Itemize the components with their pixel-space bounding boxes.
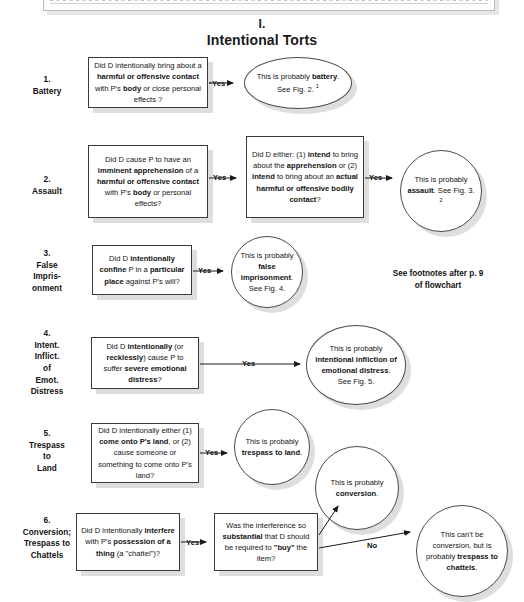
- row-label-false-imprisonment-line4: onment: [10, 283, 84, 295]
- edge-label-assault-yes-1: Yes: [213, 173, 226, 182]
- title-numeral: I.: [0, 17, 524, 32]
- row-label-iied-number: 4.: [10, 328, 84, 340]
- decision-box-conversion[interactable]: Did D intentionally interfere with P's p…: [76, 513, 180, 571]
- footnote-reference-line1: See footnotes after p. 9: [358, 268, 518, 280]
- row-label-battery-number: 1.: [12, 74, 82, 86]
- terminal-battery-outcome-text: This is probably battery. See Fig. 2. 1: [252, 71, 343, 95]
- row-label-assault-number: 2.: [12, 174, 82, 186]
- decision-box-assault-intent-text: Did D either: (1) intend to bring about …: [251, 149, 359, 204]
- terminal-assault-outcome-text: This is probably assault. See Fig. 3. 2: [407, 174, 476, 209]
- terminal-assault-outcome[interactable]: This is probably assault. See Fig. 3. 2: [400, 150, 482, 232]
- row-label-trespass-land-line3: to: [10, 451, 84, 463]
- edge-label-iied-yes: Yes: [242, 359, 255, 368]
- terminal-conversion-outcome-text: This is probably conversion.: [322, 477, 393, 499]
- terminal-conversion-outcome[interactable]: This is probably conversion.: [315, 446, 399, 530]
- row-label-iied-line5: Emot.: [10, 375, 84, 387]
- terminal-trespass-land-outcome[interactable]: This is probably trespass to land.: [234, 409, 310, 485]
- edge-label-substantial-no: No: [367, 541, 377, 550]
- footnote-reference-line2: of flowchart: [358, 280, 518, 292]
- row-label-trespass-land: 5. Trespass to Land: [10, 428, 84, 475]
- row-label-trespass-land-line4: Land: [10, 463, 84, 475]
- decision-box-iied-text: Did D intentionally (or recklessly) caus…: [96, 341, 194, 385]
- row-label-assault: 2. Assault: [12, 174, 82, 197]
- decision-box-assault-intent[interactable]: Did D either: (1) intend to bring about …: [246, 136, 364, 218]
- terminal-trespass-land-outcome-text: This is probably trespass to land.: [240, 436, 304, 458]
- decision-box-conversion-text: Did D intentionally interfere with P's p…: [81, 525, 175, 558]
- terminal-iied-outcome[interactable]: This is probably intentional infliction …: [306, 325, 406, 405]
- terminal-false-imprisonment-outcome-text: This is probably false imprisonment. See…: [237, 250, 297, 294]
- page-title: I. Intentional Torts: [0, 17, 524, 50]
- row-label-iied-line3: Inflict.: [10, 351, 84, 363]
- row-label-false-imprisonment-line3: Impris-: [10, 271, 84, 283]
- decision-box-trespass-land-text: Did D intentionally either (1) come onto…: [96, 425, 194, 480]
- illegible-text-smudge: [50, 0, 488, 1]
- row-label-battery: 1. Battery: [12, 74, 82, 97]
- row-label-trespass-land-line2: Trespass: [10, 440, 84, 452]
- edge-label-battery-yes: Yes: [212, 79, 225, 88]
- row-label-assault-name: Assault: [12, 186, 82, 198]
- row-label-iied-line6: Distress: [10, 386, 84, 398]
- title-name: Intentional Torts: [0, 32, 524, 50]
- footnote-reference-note: See footnotes after p. 9 of flowchart: [358, 268, 518, 293]
- row-label-false-imprisonment-number: 3.: [10, 248, 84, 260]
- horizontal-rule: [50, 3, 488, 4]
- row-label-false-imprisonment: 3. False Impris- onment: [10, 248, 84, 295]
- decision-box-false-imprisonment[interactable]: Did D intentionally confine P in a parti…: [92, 245, 192, 295]
- row-label-iied-line2: Intent.: [10, 340, 84, 352]
- edge-label-trespass-land-yes: Yes: [205, 448, 218, 457]
- decision-box-assault-text: Did D cause P to have an imminent appreh…: [93, 154, 203, 209]
- row-label-trespass-land-number: 5.: [10, 428, 84, 440]
- row-label-false-imprisonment-line2: False: [10, 260, 84, 272]
- terminal-iied-outcome-text: This is probably intentional infliction …: [314, 343, 398, 387]
- decision-box-substantial-interference[interactable]: Was the interference so substantial that…: [214, 513, 318, 571]
- decision-box-assault[interactable]: Did D cause P to have an imminent appreh…: [88, 145, 208, 218]
- decision-box-battery-text: Did D intentionally bring about a harmfu…: [93, 60, 203, 104]
- row-label-iied: 4. Intent. Inflict. of Emot. Distress: [10, 328, 84, 398]
- decision-box-false-imprisonment-text: Did D intentionally confine P in a parti…: [97, 253, 187, 286]
- edge-label-conversion-yes: Yes: [186, 538, 199, 547]
- row-label-iied-line4: of: [10, 363, 84, 375]
- terminal-battery-outcome[interactable]: This is probably battery. See Fig. 2. 1: [244, 57, 352, 109]
- row-label-battery-name: Battery: [12, 86, 82, 98]
- terminal-false-imprisonment-outcome[interactable]: This is probably false imprisonment. See…: [231, 236, 303, 308]
- decision-box-iied[interactable]: Did D intentionally (or recklessly) caus…: [91, 337, 199, 389]
- terminal-trespass-chattels-outcome[interactable]: This can't be conversion, but is probabl…: [416, 505, 508, 597]
- edge-label-assault-yes-2: Yes: [369, 173, 382, 182]
- decision-box-battery[interactable]: Did D intentionally bring about a harmfu…: [88, 57, 208, 108]
- scan-artifact-top-box: [43, 0, 495, 11]
- decision-box-trespass-land[interactable]: Did D intentionally either (1) come onto…: [91, 423, 199, 483]
- decision-box-substantial-interference-text: Was the interference so substantial that…: [219, 520, 313, 564]
- terminal-trespass-chattels-outcome-text: This can't be conversion, but is probabl…: [423, 529, 500, 573]
- edge-label-false-imprisonment-yes: Yes: [198, 266, 211, 275]
